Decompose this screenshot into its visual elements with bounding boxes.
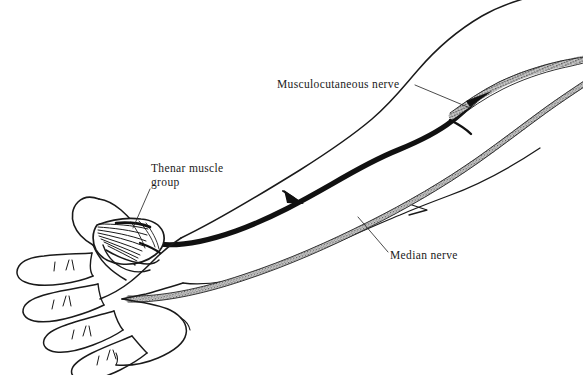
- label-musculocutaneous-nerve: Musculocutaneous nerve: [277, 78, 399, 92]
- label-median-nerve: Median nerve: [390, 249, 458, 263]
- anatomy-figure: Musculocutaneous nerve Thenar muscle gro…: [0, 0, 583, 375]
- label-thenar-line-2: group: [151, 176, 224, 190]
- anatomy-illustration: [0, 0, 583, 375]
- fingers: [17, 253, 147, 375]
- arm-superior-outline: [181, 0, 556, 238]
- leader-musculocutaneous: [415, 85, 470, 108]
- label-thenar-line-1: Thenar muscle: [151, 162, 224, 174]
- forearm-stippled-nerve-band: [128, 81, 583, 302]
- label-thenar-muscle-group: Thenar muscle group: [151, 162, 224, 189]
